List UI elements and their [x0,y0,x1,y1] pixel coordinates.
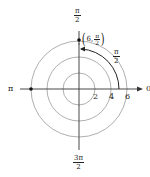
radial-tick-4: 4 [109,93,114,101]
label-pi-over-2-top: π 2 [74,8,81,24]
top-label-numerator: π [74,8,81,16]
top-label-denominator: 2 [75,16,79,24]
label-3pi-over-2-bottom: 3π 2 [73,155,84,171]
radial-tick-2: 2 [93,93,98,101]
polar-grid-svg [0,0,150,177]
point-theta-denominator: 2 [95,40,99,46]
arc-arrowhead-icon [80,47,85,52]
arc-label-denominator: 2 [114,57,118,65]
bottom-label-numerator: 3π [73,155,84,163]
point-label-comma: , [91,35,93,43]
axis-arrowhead-icon [137,87,143,92]
point-label: ( 6, π 2 ) [81,32,106,46]
bottom-label-denominator: 2 [76,163,80,171]
point-on-pi-axis [29,87,33,91]
arc-angle-label: π 2 [113,49,120,65]
label-pi-left: π [8,85,13,93]
point-label-theta: π 2 [94,33,100,46]
arc-label-numerator: π [113,49,120,57]
radial-tick-6: 6 [125,93,130,101]
polar-diagram: π 2 ( 6, π 2 ) π 2 π 0 2 4 6 3π 2 [0,0,150,177]
label-zero-right: 0 [146,85,150,93]
